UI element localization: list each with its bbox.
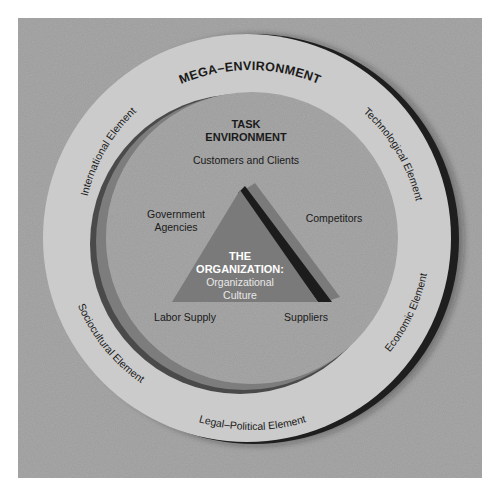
task-environment-title-line1: TASK xyxy=(231,118,260,130)
government-agencies-label-line1: Government xyxy=(147,208,205,220)
labor-supply-label: Labor Supply xyxy=(154,311,217,323)
organization-subtitle-line1: Organizational xyxy=(206,276,274,288)
customers-and-clients-label: Customers and Clients xyxy=(193,154,299,166)
competitors-label: Competitors xyxy=(306,212,363,224)
organization-title-line2: ORGANIZATION: xyxy=(196,263,284,275)
task-environment-title-line2: ENVIRONMENT xyxy=(205,131,287,143)
organization-title-line1: THE xyxy=(229,250,251,262)
organization-subtitle-line2: Culture xyxy=(223,289,257,301)
government-agencies-label-line2: Agencies xyxy=(154,221,197,233)
environment-diagram: MEGA–ENVIRONMENT International Element T… xyxy=(0,0,497,492)
suppliers-label: Suppliers xyxy=(284,311,328,323)
